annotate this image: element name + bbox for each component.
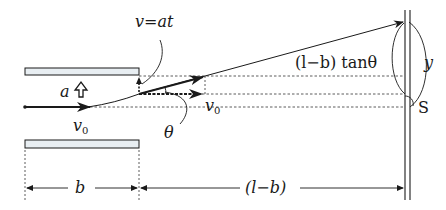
top-plate <box>25 68 139 75</box>
tan-brace-arc <box>392 23 405 94</box>
bottom-plate <box>25 140 139 148</box>
s-point-arc <box>405 96 413 106</box>
velocity-vector <box>139 77 203 94</box>
acceleration-arrow-icon <box>75 82 87 97</box>
label-v0-mid: v0 <box>205 96 220 116</box>
theta-angle-arc <box>165 87 166 94</box>
parabolic-trajectory <box>88 94 139 107</box>
label-point-s: S <box>418 98 429 117</box>
deflection-diagram: v=at a v0 v0 θ (l−b) tanθ y S b (l−b) <box>0 0 446 210</box>
label-theta: θ <box>164 123 174 142</box>
label-v0-entry: v0 <box>73 116 88 136</box>
theta-leader-line <box>165 92 187 124</box>
label-v-equals-at: v=at <box>135 12 174 31</box>
label-deflection-y: y <box>423 53 434 72</box>
label-plate-length-b: b <box>75 178 85 197</box>
label-drift-length: (l−b) <box>245 178 286 197</box>
label-screen-offset: (l−b) tanθ <box>295 53 377 72</box>
vat-leader-line <box>142 40 162 84</box>
label-acceleration: a <box>60 82 70 101</box>
